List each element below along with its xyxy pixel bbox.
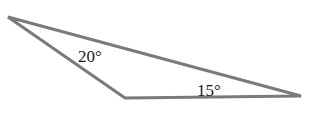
triangle [8, 17, 301, 98]
triangle-diagram: 20° 15° [0, 0, 316, 117]
angle-label-20: 20° [78, 47, 102, 66]
angle-label-15: 15° [197, 81, 221, 100]
